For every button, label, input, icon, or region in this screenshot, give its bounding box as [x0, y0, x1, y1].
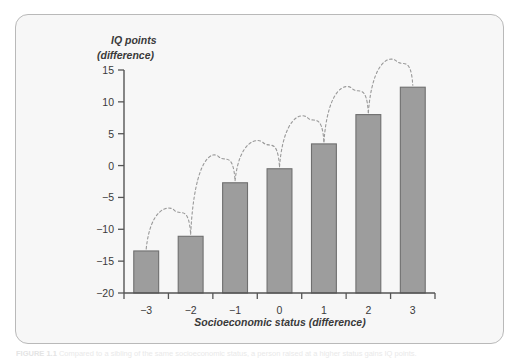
y-tick-label: 0 [108, 160, 114, 172]
bar [223, 183, 248, 293]
x-tick-label: 2 [365, 304, 371, 316]
y-axis-ticks: 151050−5−10−15−20 [96, 64, 124, 299]
y-tick-label: −15 [96, 255, 114, 267]
y-tick-label: −20 [96, 287, 114, 299]
x-axis-ticks: −3−2−10123 [124, 293, 435, 316]
y-tick-label: 15 [102, 64, 114, 76]
x-tick-label: −2 [185, 304, 197, 316]
bar [178, 236, 203, 293]
bar [267, 169, 292, 293]
bars [134, 87, 425, 293]
iq-socioeconomic-bar-chart: IQ points (difference) 151050−5−10−15−20… [15, 14, 504, 344]
figure-caption: FIGURE 1.1 Compared to a sibling of the … [16, 349, 516, 359]
y-axis-title-line2: (difference) [97, 49, 154, 61]
y-tick-label: −10 [96, 223, 114, 235]
bar [134, 251, 159, 293]
x-tick-label: 3 [410, 304, 416, 316]
y-axis-title-line1: IQ points [111, 34, 157, 46]
x-tick-label: 1 [321, 304, 327, 316]
bar [356, 115, 381, 293]
x-axis-title: Socioeconomic status (difference) [194, 316, 366, 328]
y-tick-label: −5 [102, 191, 114, 203]
x-tick-label: −3 [140, 304, 152, 316]
x-tick-label: 0 [277, 304, 283, 316]
figure-caption-text: Compared to a sibling of the same socioe… [59, 349, 417, 358]
y-tick-label: 5 [108, 128, 114, 140]
x-tick-label: −1 [229, 304, 241, 316]
y-tick-label: 10 [102, 96, 114, 108]
bar [311, 144, 336, 293]
figure-caption-label: FIGURE 1.1 [16, 349, 57, 358]
bar [400, 87, 425, 293]
figure-root: IQ points (difference) 151050−5−10−15−20… [0, 0, 520, 361]
